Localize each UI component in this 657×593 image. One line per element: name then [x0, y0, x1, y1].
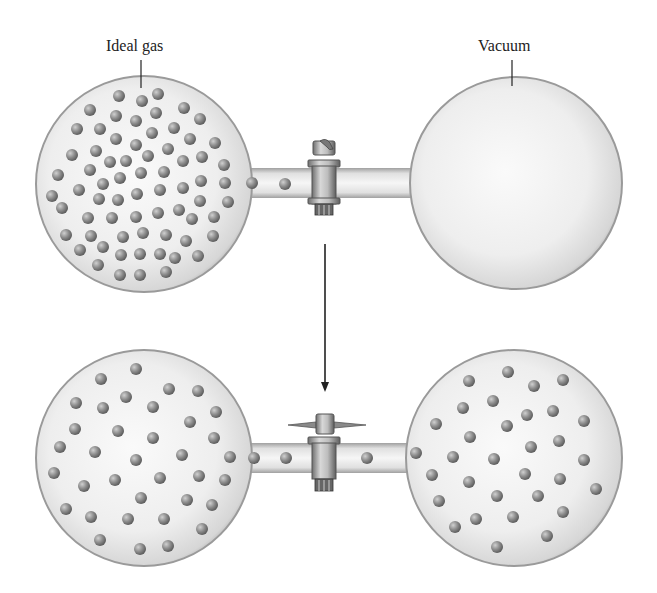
- initial-state: [36, 60, 622, 292]
- stopcock-closed: [308, 139, 340, 215]
- left-bulb-final: [36, 350, 252, 566]
- down-arrow-icon: [321, 244, 329, 392]
- final-state: [36, 350, 622, 566]
- gas-expansion-diagram: [0, 0, 657, 593]
- right-bulb-vacuum: [410, 77, 622, 289]
